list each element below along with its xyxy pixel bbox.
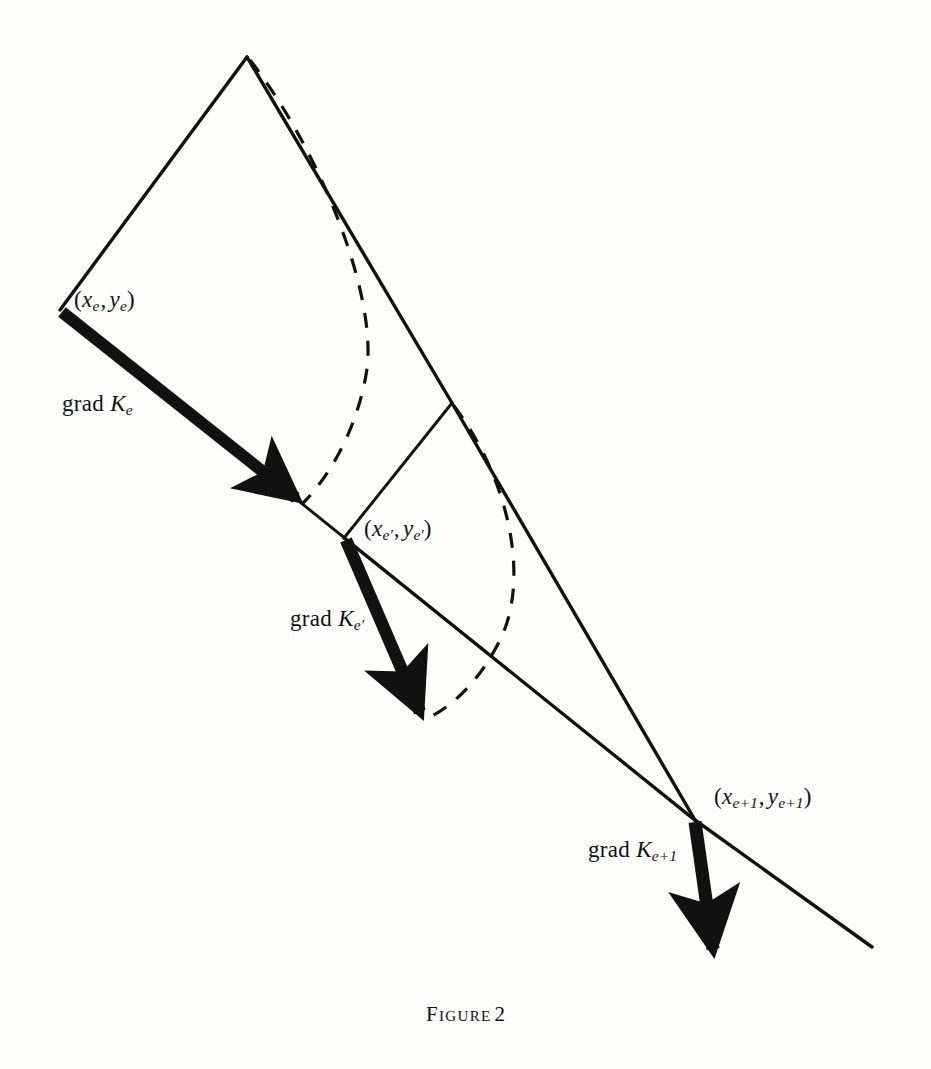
label-point-e: (xe,ye) (74, 288, 135, 314)
construction-lines (60, 57, 872, 947)
label-gradient-e: grad Ke (62, 392, 133, 418)
gradient-arrow-e-plus-1 (695, 822, 713, 949)
figure-container: (xe,ye) grad Ke (xe′,ye′) grad Ke′ (xe+1… (0, 0, 931, 1069)
line-apex-to-point-e (60, 57, 247, 310)
line-apex-to-vertex-mid (247, 57, 452, 403)
figure-caption-number: 2 (491, 1002, 505, 1026)
diagram-canvas (0, 0, 931, 1069)
label-point-e-plus-1: (xe+1,ye+1) (714, 785, 812, 811)
label-gradient-e-prime: grad Ke′ (290, 607, 364, 633)
figure-caption: Figure2 (0, 1002, 931, 1027)
dashed-arc-first (250, 60, 368, 503)
line-point-e-prime-lower-ray (344, 538, 697, 822)
line-point-e-plus-1-to-bottom-right (695, 820, 872, 947)
dashed-arc-second (426, 406, 514, 719)
label-point-e-prime: (xe′,ye′) (364, 517, 432, 543)
figure-caption-word: Figure (426, 1002, 491, 1026)
label-gradient-e-plus-1: grad Ke+1 (588, 838, 677, 864)
